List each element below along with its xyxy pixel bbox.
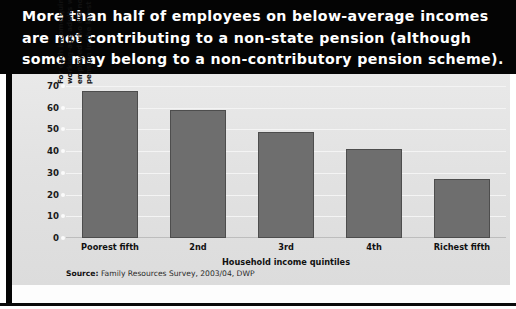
source-text: Family Resources Survey, 2003/04, DWP bbox=[99, 269, 255, 278]
x-tick-label: Poorest fifth bbox=[62, 242, 158, 252]
x-axis-title: Household income quintiles bbox=[66, 257, 506, 267]
x-tick-label: Richest fifth bbox=[414, 242, 510, 252]
x-tick-label: 4th bbox=[326, 242, 422, 252]
source-prefix: Source: bbox=[66, 269, 99, 278]
y-tick-marker bbox=[61, 214, 65, 218]
y-axis-label: For each income quintile, proportion of … bbox=[56, 0, 100, 84]
bar bbox=[82, 91, 138, 238]
y-tick-marker bbox=[61, 171, 65, 175]
y-tick-label: 10 bbox=[47, 211, 59, 221]
chart-figure: More than half of employees on below-ave… bbox=[0, 0, 516, 309]
y-tick-label: 20 bbox=[47, 190, 59, 200]
y-tick-marker bbox=[61, 193, 65, 197]
bottom-rule bbox=[0, 303, 516, 306]
y-tick-marker bbox=[61, 236, 65, 240]
y-tick-label: 30 bbox=[47, 168, 59, 178]
y-tick-label: 70 bbox=[47, 81, 59, 91]
y-tick-marker bbox=[61, 106, 65, 110]
plot-area: 010203040506070Poorest fifth2nd3rd4thRic… bbox=[66, 86, 506, 238]
y-tick-marker bbox=[61, 84, 65, 88]
y-tick-marker bbox=[61, 149, 65, 153]
y-tick-label: 0 bbox=[53, 233, 59, 243]
source-note: Source: Family Resources Survey, 2003/04… bbox=[66, 269, 255, 278]
gridline bbox=[66, 86, 506, 87]
x-tick-label: 2nd bbox=[150, 242, 246, 252]
y-tick-marker bbox=[61, 127, 65, 131]
y-tick-label: 50 bbox=[47, 124, 59, 134]
bar bbox=[346, 149, 402, 238]
bar bbox=[258, 132, 314, 238]
footer-strip bbox=[6, 285, 510, 303]
y-tick-label: 60 bbox=[47, 103, 59, 113]
bar bbox=[170, 110, 226, 238]
y-tick-label: 40 bbox=[47, 146, 59, 156]
x-tick-label: 3rd bbox=[238, 242, 334, 252]
bar bbox=[434, 179, 490, 238]
chart-panel: For each income quintile, proportion of … bbox=[6, 74, 510, 285]
